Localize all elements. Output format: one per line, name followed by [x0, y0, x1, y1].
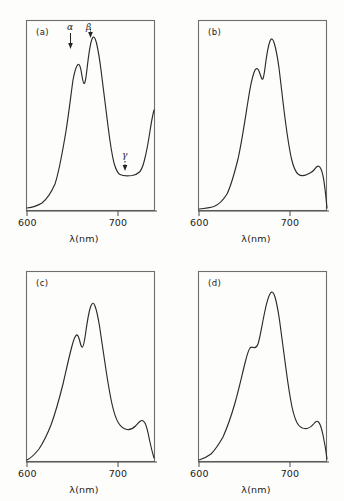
- beta-arrowhead: [88, 32, 93, 38]
- x-tick-label-700: 700: [109, 468, 128, 479]
- panel-a-plot: (a) α β γ 600 700 λ(nm): [0, 0, 172, 250]
- spectrum-curve: [27, 303, 154, 460]
- x-tick-label-600: 600: [18, 468, 37, 479]
- panel-b-plot: (b) 600 700 λ(nm): [172, 0, 344, 250]
- x-tick-label-700: 700: [109, 217, 128, 228]
- x-tick-label-700: 700: [281, 468, 300, 479]
- panel-label: (b): [208, 27, 221, 37]
- x-axis-label: λ(nm): [241, 233, 270, 244]
- x-tick-label-700: 700: [281, 217, 300, 228]
- alpha-label: α: [67, 22, 73, 32]
- panel-d-plot: (d) 600 700 λ(nm): [172, 251, 344, 501]
- x-axis-label: λ(nm): [69, 233, 98, 244]
- spectrum-curve: [27, 37, 154, 208]
- gamma-label: γ: [122, 150, 128, 160]
- panel-b: (b) 600 700 λ(nm): [172, 0, 344, 250]
- x-tick-label-600: 600: [190, 468, 209, 479]
- plot-frame: [199, 21, 327, 211]
- plot-frame: [27, 272, 155, 462]
- panel-c-plot: (c) 600 700 λ(nm): [0, 251, 172, 501]
- gamma-arrowhead: [123, 165, 128, 171]
- panel-c: (c) 600 700 λ(nm): [0, 251, 172, 501]
- plot-frame: [199, 272, 327, 462]
- panel-label: (a): [36, 27, 49, 37]
- panel-a: (a) α β γ 600 700 λ(nm): [0, 0, 172, 250]
- x-axis-label: λ(nm): [69, 484, 98, 495]
- panel-label: (d): [208, 278, 221, 288]
- spectra-figure: (a) α β γ 600 700 λ(nm) (b): [0, 0, 344, 501]
- spectrum-curve: [199, 292, 327, 460]
- alpha-arrowhead: [68, 43, 73, 49]
- panel-d: (d) 600 700 λ(nm): [172, 251, 344, 501]
- x-tick-label-600: 600: [190, 217, 209, 228]
- x-axis-label: λ(nm): [241, 484, 270, 495]
- spectrum-curve: [199, 39, 327, 209]
- plot-frame: [27, 21, 155, 211]
- x-tick-label-600: 600: [18, 217, 37, 228]
- panel-label: (c): [36, 278, 49, 288]
